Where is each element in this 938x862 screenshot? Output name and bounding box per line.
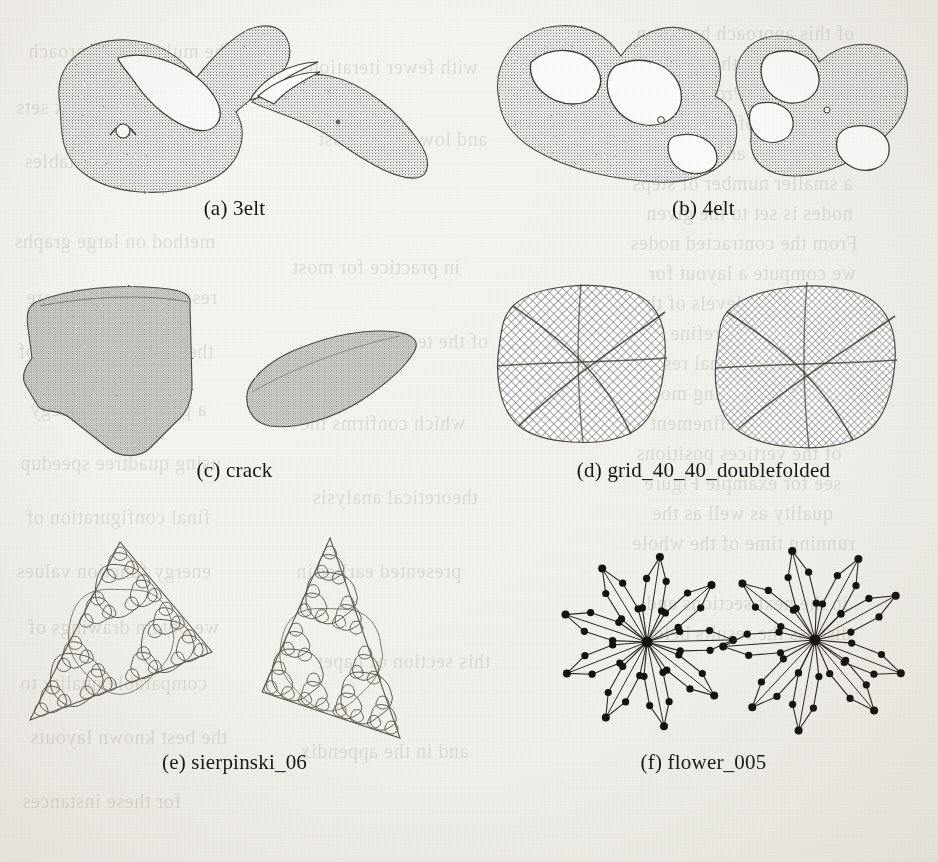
subfigure-b-view-left	[498, 26, 737, 183]
subfigure-e-graphic	[0, 524, 469, 754]
subfigure-d-grid: (d) grid_40_40_doublefolded	[469, 262, 938, 502]
subfigure-d-view-right	[715, 282, 897, 448]
subfigure-b-graphic	[469, 0, 938, 200]
subfigure-a-view-right	[250, 62, 428, 178]
subfigure-d-caption: (d) grid_40_40_doublefolded	[469, 458, 938, 483]
subfigure-c-graphic	[0, 262, 469, 462]
subfigure-c-crack: (c) crack	[0, 262, 469, 502]
subfigure-e-caption: (e) sierpinski_06	[0, 750, 469, 775]
subfigure-c-caption: (c) crack	[0, 458, 469, 483]
subfigure-grid: (a) 3elt	[0, 0, 938, 862]
subfigure-d-view-left	[497, 284, 667, 442]
subfigure-e-sierpinski: (e) sierpinski_06	[0, 524, 469, 784]
subfigure-d-graphic	[469, 262, 938, 462]
subfigure-e-view-left	[30, 542, 212, 720]
subfigure-b-4elt: (b) 4elt	[469, 0, 938, 240]
subfigure-a-graphic	[0, 0, 469, 200]
subfigure-f-view-right	[719, 547, 905, 735]
subfigure-a-caption: (a) 3elt	[0, 196, 469, 221]
subfigure-f-view-left	[562, 553, 738, 730]
figure-page: of this approach has beenand 1966 that t…	[0, 0, 938, 862]
subfigure-c-view-left	[24, 287, 192, 456]
subfigure-a-3elt: (a) 3elt	[0, 0, 469, 240]
subfigure-b-caption: (b) 4elt	[469, 196, 938, 221]
subfigure-c-view-right	[247, 331, 416, 427]
subfigure-e-view-right	[262, 538, 400, 738]
subfigure-f-graphic	[469, 524, 938, 754]
subfigure-f-flower: (f) flower_005	[469, 524, 938, 784]
subfigure-f-caption: (f) flower_005	[469, 750, 938, 775]
subfigure-b-view-right	[736, 36, 908, 176]
subfigure-a-view-left	[59, 26, 290, 192]
